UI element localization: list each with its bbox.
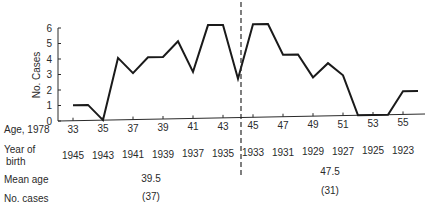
right-group-mean-age: 47.5 xyxy=(320,166,340,177)
y-tick-label: 2 xyxy=(46,85,52,96)
x-tick-label: 49 xyxy=(307,119,319,130)
year-of-birth-label: 1931 xyxy=(272,147,295,158)
year-of-birth-label: 1927 xyxy=(332,146,355,157)
x-tick-label: 45 xyxy=(247,120,259,131)
year-of-birth-label: 1925 xyxy=(362,145,385,156)
year-of-birth-label-line1: Year of xyxy=(4,144,36,155)
right-group-case-count: (31) xyxy=(321,185,339,196)
y-tick-label: 5 xyxy=(46,38,52,49)
y-tick-label: 6 xyxy=(46,23,52,34)
y-tick-label: 1 xyxy=(46,100,52,111)
x-tick-label: 53 xyxy=(367,118,379,129)
no-cases-row-label: No. cases xyxy=(4,193,48,204)
mean-age-row-label: Mean age xyxy=(4,174,49,185)
line-chart: No. Cases 0123456 3335373941434547495153… xyxy=(0,0,425,206)
y-tick-label: 3 xyxy=(46,69,52,80)
y-axis-ticks: 0123456 xyxy=(46,23,61,127)
year-of-birth-label: 1929 xyxy=(302,146,325,157)
year-of-birth-label: 1933 xyxy=(242,147,265,158)
x-tick-label: 35 xyxy=(97,123,109,134)
x-tick-label: 33 xyxy=(67,124,79,135)
year-of-birth-label: 1937 xyxy=(182,148,205,159)
x-tick-label: 37 xyxy=(127,123,139,134)
left-group-mean-age: 39.5 xyxy=(141,173,161,184)
x-tick-label: 43 xyxy=(217,121,229,132)
year-of-birth-label: 1945 xyxy=(62,150,85,161)
year-of-birth-label: 1923 xyxy=(392,145,415,156)
cases-line xyxy=(73,24,418,120)
x-tick-label: 39 xyxy=(157,122,169,133)
y-tick-label: 4 xyxy=(46,54,52,65)
age-row-label: Age, 1978 xyxy=(4,124,50,135)
year-of-birth-row: 1945194319411939193719351933193119291927… xyxy=(62,145,415,162)
year-of-birth-label: 1941 xyxy=(122,149,145,160)
year-of-birth-label: 1935 xyxy=(212,148,235,159)
year-of-birth-label: 1943 xyxy=(92,150,115,161)
year-of-birth-label-line2: birth xyxy=(6,156,25,167)
x-tick-label: 47 xyxy=(277,120,289,131)
year-of-birth-label: 1939 xyxy=(152,149,175,160)
x-tick-label: 55 xyxy=(397,117,409,128)
y-axis-label: No. Cases xyxy=(31,52,42,99)
left-group-case-count: (37) xyxy=(142,191,160,202)
x-tick-label: 41 xyxy=(187,121,199,132)
x-tick-label: 51 xyxy=(337,119,349,130)
